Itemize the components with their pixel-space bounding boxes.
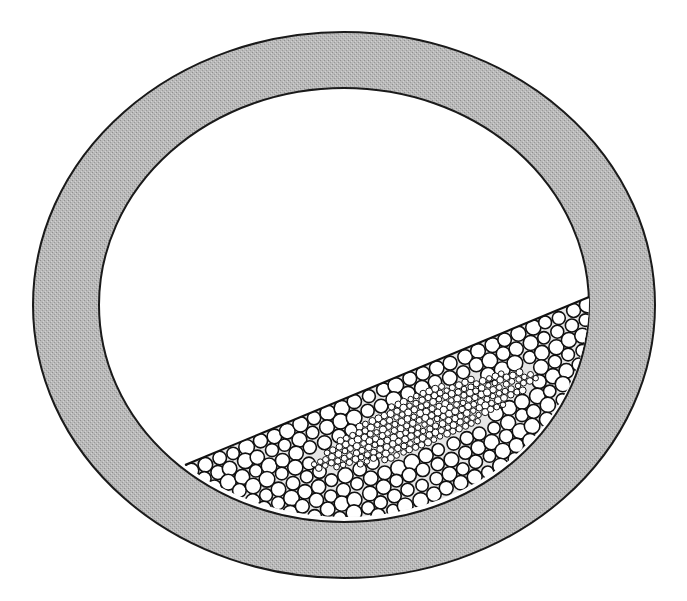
particle [408, 396, 414, 402]
particle [519, 387, 526, 394]
particle [434, 416, 440, 422]
particle [289, 446, 303, 460]
particle [380, 419, 386, 425]
particle [450, 428, 456, 434]
particle [364, 471, 379, 486]
particle [439, 420, 446, 427]
particle [233, 484, 247, 498]
particle [402, 468, 416, 482]
particle [494, 404, 500, 410]
particle [382, 457, 388, 463]
particle [395, 438, 401, 444]
particle [391, 427, 397, 433]
particle [334, 464, 340, 470]
particle [397, 498, 413, 514]
particle [374, 430, 379, 435]
particle [468, 420, 474, 426]
particle [394, 452, 400, 458]
particle [437, 434, 443, 440]
particle [377, 439, 384, 446]
particle [342, 448, 348, 454]
particle [460, 432, 473, 445]
particle [463, 410, 470, 417]
particle [346, 505, 362, 521]
particle [407, 441, 413, 447]
particle [388, 404, 394, 410]
particle [295, 499, 309, 513]
particle [483, 450, 495, 462]
particle [376, 453, 382, 459]
particle [367, 431, 373, 437]
particle [311, 480, 325, 494]
particle [509, 342, 523, 356]
particle [362, 390, 375, 403]
particle [414, 393, 420, 399]
particle [479, 377, 486, 384]
particle [454, 402, 460, 408]
particle [370, 455, 377, 462]
particle [340, 462, 346, 468]
particle [490, 386, 497, 393]
particle [552, 312, 565, 325]
particle [409, 420, 416, 427]
particle [325, 474, 338, 487]
particle [454, 395, 461, 402]
particle [538, 332, 550, 344]
particle [385, 431, 391, 437]
particle [449, 385, 455, 391]
particle [444, 452, 459, 467]
particle [364, 452, 370, 458]
particle [346, 459, 352, 465]
particle [416, 479, 428, 491]
particle [503, 374, 510, 381]
rotating-drum-diagram [0, 0, 687, 601]
particle [467, 470, 482, 485]
particle [303, 441, 316, 454]
particle [452, 408, 459, 415]
particle [457, 366, 470, 379]
particle [548, 355, 561, 368]
particle [322, 463, 328, 469]
particle [482, 466, 494, 478]
particle [329, 453, 336, 460]
particle [533, 375, 538, 380]
particle [508, 392, 514, 398]
particle [411, 414, 417, 420]
particle [408, 427, 415, 434]
particle [470, 415, 476, 421]
particle [347, 453, 353, 459]
particle [471, 408, 477, 414]
particle [375, 422, 381, 428]
particle [555, 376, 570, 391]
particle [502, 388, 508, 394]
particle [486, 376, 492, 382]
particle [468, 376, 475, 383]
particle [457, 419, 463, 425]
particle [415, 425, 421, 431]
particle [271, 482, 286, 497]
particle [390, 474, 403, 487]
particle [540, 397, 555, 412]
particle [386, 424, 392, 430]
particle [347, 446, 353, 452]
particle [463, 423, 469, 429]
particle [443, 356, 457, 370]
particle [328, 460, 334, 466]
particle [509, 378, 515, 384]
particle [443, 371, 458, 386]
particle [387, 410, 394, 417]
particle [562, 348, 575, 361]
particle [300, 470, 312, 482]
particle [365, 444, 372, 451]
particle [406, 446, 413, 453]
particle [419, 448, 434, 463]
particle [424, 402, 430, 408]
particle [457, 463, 469, 475]
particle [488, 422, 500, 434]
particle [476, 412, 481, 417]
particle [475, 418, 481, 424]
particle [469, 455, 483, 469]
particle [431, 437, 437, 443]
particle [364, 459, 370, 465]
particle [432, 423, 438, 429]
